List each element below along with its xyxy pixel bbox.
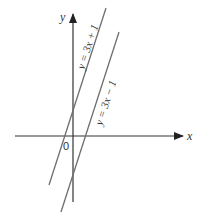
y-axis-label: y — [59, 10, 66, 24]
diagram-canvas: y x 0 y = 3x + 1 y = 3x − 1 — [0, 0, 201, 221]
equation-label-3x-plus-1: y = 3x + 1 — [74, 23, 100, 72]
x-axis-label: x — [186, 129, 193, 143]
graph-svg: y x 0 y = 3x + 1 y = 3x − 1 — [0, 0, 201, 221]
origin-label: 0 — [63, 140, 69, 152]
